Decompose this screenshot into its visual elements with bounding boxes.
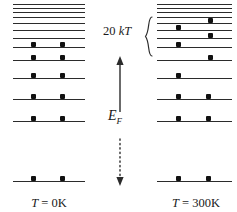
- energy-gap-label: 20 kT: [103, 24, 131, 39]
- temperature-symbol: T: [31, 196, 38, 210]
- energy-gap-brace: [146, 17, 153, 56]
- fermi-energy-subscript: F: [117, 116, 123, 126]
- fermi-arrow-head-up: [116, 56, 123, 65]
- panel-temperature-text-right: T = 300K: [172, 196, 220, 211]
- panel-temperature-text-left: T = 0K: [31, 196, 67, 211]
- energy-level-diagram: EF 20 kT T = 0KT = 300K: [0, 0, 237, 212]
- fermi-energy-label: EF: [108, 108, 122, 126]
- temperature-value: = 0K: [38, 196, 67, 210]
- fermi-energy-symbol: E: [108, 108, 117, 123]
- energy-gap-number: 20: [103, 24, 119, 38]
- energy-gap-unit: kT: [119, 24, 132, 38]
- temperature-symbol: T: [172, 196, 179, 210]
- temperature-value: = 300K: [179, 196, 220, 210]
- fermi-arrow-head-down: [116, 177, 123, 186]
